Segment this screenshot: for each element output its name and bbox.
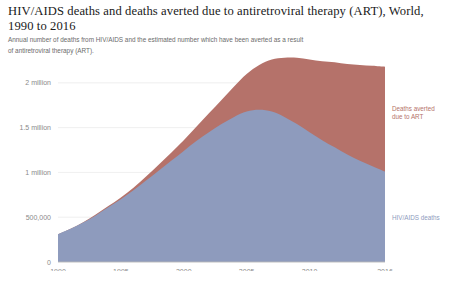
label-deaths-averted-line1: Deaths averted bbox=[392, 105, 435, 112]
label-deaths-averted-line2: due to ART bbox=[392, 113, 424, 120]
x-tick-label: 2016 bbox=[377, 268, 393, 271]
x-tick-label: 1995 bbox=[113, 268, 129, 271]
y-axis-ticks: 0500,0001 million1.5 million2 million bbox=[19, 79, 51, 265]
x-tick-label: 2000 bbox=[176, 268, 192, 271]
chart-plot-area: 0500,0001 million1.5 million2 million 19… bbox=[0, 56, 465, 271]
y-tick-label: 1 million bbox=[25, 169, 51, 176]
chart-card: HIV/AIDS deaths and deaths averted due t… bbox=[0, 0, 465, 298]
y-tick-label: 2 million bbox=[25, 79, 51, 86]
label-hiv-aids-deaths: HIV/AIDS deaths bbox=[392, 214, 440, 221]
y-tick-label: 0 bbox=[47, 259, 51, 266]
x-tick-label: 2005 bbox=[239, 268, 255, 271]
y-tick-label: 500,000 bbox=[26, 214, 51, 221]
series-labels: Deaths averted due to ART HIV/AIDS death… bbox=[392, 105, 440, 221]
x-tick-label: 1990 bbox=[50, 268, 66, 271]
page-title: HIV/AIDS deaths and deaths averted due t… bbox=[8, 4, 438, 33]
x-tick-label: 2010 bbox=[302, 268, 318, 271]
x-axis-ticks: 199019952000200520102016 bbox=[50, 268, 393, 271]
chart-areas bbox=[58, 58, 385, 262]
chart-subtitle: Annual number of deaths from HIV/AIDS an… bbox=[8, 35, 308, 56]
y-tick-label: 1.5 million bbox=[19, 124, 51, 131]
stacked-area-chart: 0500,0001 million1.5 million2 million 19… bbox=[0, 56, 465, 271]
